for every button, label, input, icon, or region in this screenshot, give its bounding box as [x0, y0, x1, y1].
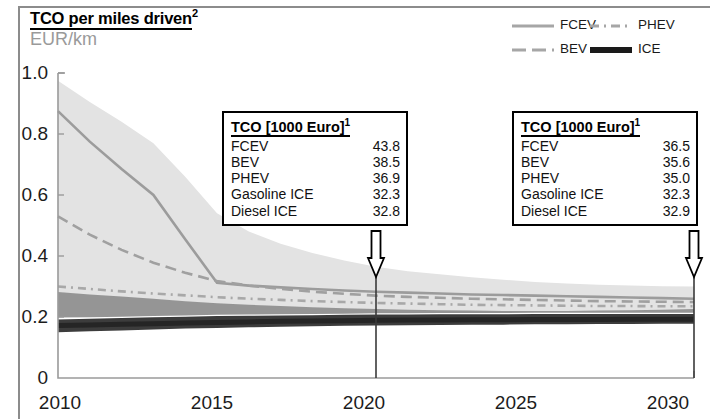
callout-2020-value-fcev: 43.8 [366, 138, 400, 154]
callout-2030-value-fcev: 36.5 [656, 138, 690, 154]
y-tick-label-0-8: 0.8 [2, 123, 48, 145]
callout-2030-row-gasoline-ice: Gasoline ICE 32.3 [521, 186, 690, 202]
callout-2030-title: TCO [1000 Euro]1 [521, 117, 640, 137]
callout-2020-title: TCO [1000 Euro]1 [231, 117, 350, 137]
callout-2020-value-diesel-ice: 32.8 [366, 203, 400, 219]
x-tick-label-2030: 2030 [633, 392, 703, 414]
callout-2030-row-fcev: FCEV 36.5 [521, 138, 690, 154]
callout-2020-value-gasoline-ice: 32.3 [366, 186, 400, 202]
callout-2030-name-gasoline-ice: Gasoline ICE [521, 186, 613, 202]
y-tick-label-0-6: 0.6 [2, 184, 48, 206]
callout-2020-name-fcev: FCEV [231, 138, 278, 154]
x-tick-label-2025: 2025 [481, 392, 551, 414]
callout-2030-row-phev: PHEV 35.0 [521, 170, 690, 186]
callout-2020-row-fcev: FCEV 43.8 [231, 138, 400, 154]
callout-2020-row-bev: BEV 38.5 [231, 154, 400, 170]
x-tick-label-2010: 2010 [25, 392, 95, 414]
callout-2020-name-gasoline-ice: Gasoline ICE [231, 186, 323, 202]
x-tick-label-2015: 2015 [177, 392, 247, 414]
tco-chart-figure: TCO per miles driven2 EUR/km FCEV PHEV B… [0, 0, 710, 419]
callout-2020-name-bev: BEV [231, 154, 269, 170]
y-tick-label-0-4: 0.4 [2, 245, 48, 267]
callout-2020-name-diesel-ice: Diesel ICE [231, 203, 307, 219]
callout-2030-title-text: TCO [1000 Euro] [521, 119, 635, 135]
callout-2030-name-diesel-ice: Diesel ICE [521, 203, 597, 219]
x-tick-label-2020: 2020 [329, 392, 399, 414]
callout-2030-name-fcev: FCEV [521, 138, 568, 154]
callout-2030-row-bev: BEV 35.6 [521, 154, 690, 170]
callout-2020-value-phev: 36.9 [366, 170, 400, 186]
callout-2030-value-bev: 35.6 [656, 154, 690, 170]
callout-2020-row-gasoline-ice: Gasoline ICE 32.3 [231, 186, 400, 202]
y-tick-label-0: 0 [2, 367, 48, 389]
callout-2020-value-bev: 38.5 [366, 154, 400, 170]
callout-2030-row-diesel-ice: Diesel ICE 32.9 [521, 203, 690, 219]
callout-2030: TCO [1000 Euro]1 FCEV 36.5 BEV 35.6 PHEV… [512, 111, 698, 226]
callout-2020-title-superscript: 1 [345, 117, 351, 128]
callout-2030-name-bev: BEV [521, 154, 559, 170]
callout-2020-row-phev: PHEV 36.9 [231, 170, 400, 186]
callout-2030-value-phev: 35.0 [656, 170, 690, 186]
arrow-2030 [686, 231, 702, 277]
y-tick-label-1-0: 1.0 [2, 62, 48, 84]
callout-2030-value-gasoline-ice: 32.3 [656, 186, 690, 202]
callout-2020-title-text: TCO [1000 Euro] [231, 119, 345, 135]
callout-2020-row-diesel-ice: Diesel ICE 32.8 [231, 203, 400, 219]
callout-2020-name-phev: PHEV [231, 170, 279, 186]
callout-2020: TCO [1000 Euro]1 FCEV 43.8 BEV 38.5 PHEV… [222, 111, 408, 226]
callout-2030-title-superscript: 1 [635, 117, 641, 128]
callout-2030-value-diesel-ice: 32.9 [656, 203, 690, 219]
y-tick-label-0-2: 0.2 [2, 306, 48, 328]
callout-2030-name-phev: PHEV [521, 170, 569, 186]
